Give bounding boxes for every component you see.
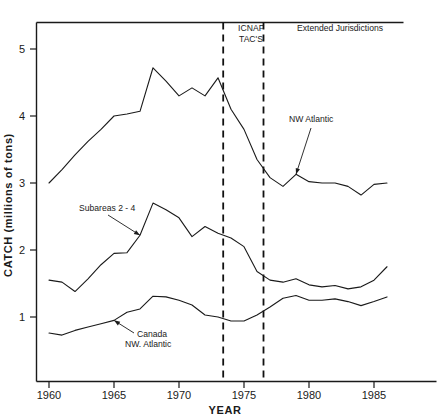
y-tick-label-3: 3	[19, 177, 25, 189]
y-tick-label-5: 5	[19, 43, 25, 55]
y-axis-title: CATCH (millions of tons)	[2, 133, 14, 277]
y-axis-ticks	[30, 49, 37, 317]
series-group	[49, 68, 387, 335]
series-line-subareas-2-4	[49, 203, 387, 291]
event-markers	[223, 23, 263, 382]
arrowhead-subareas-2-4	[134, 230, 140, 235]
x-tick-label-1960: 1960	[37, 389, 61, 401]
annotation-subareas-2-4: Subareas 2 - 4	[79, 203, 136, 213]
x-axis-tick-labels: 1960 1965 1970 1975 1980 1985	[37, 389, 386, 401]
series-line-canada-nw-atlantic	[49, 296, 387, 336]
icnaf-label-line2: TAC'S	[239, 34, 263, 44]
x-tick-label-1970: 1970	[167, 389, 191, 401]
chart-figure: 5 4 3 2 1 1960 1965 1970 1975 1980 1985 …	[0, 0, 441, 418]
arrowhead-nw-atlantic	[296, 168, 300, 174]
x-tick-label-1985: 1985	[362, 389, 386, 401]
plot-frame	[37, 23, 437, 382]
icnaf-label-line1: ICNAF	[238, 23, 264, 33]
y-tick-label-4: 4	[19, 110, 25, 122]
leader-nw-atlantic	[296, 128, 311, 174]
arrowhead-canada-nw-atlantic	[114, 320, 120, 325]
annotation-nw-atlantic: NW Atlantic	[289, 114, 334, 124]
x-tick-label-1980: 1980	[297, 389, 321, 401]
x-tick-label-1965: 1965	[102, 389, 126, 401]
extended-jurisdictions-label: Extended Jurisdictions	[297, 23, 383, 33]
y-tick-label-1: 1	[19, 311, 25, 323]
x-tick-label-1975: 1975	[232, 389, 256, 401]
series-line-nw-atlantic	[49, 68, 387, 195]
annotation-canada-line1: Canada	[137, 329, 167, 339]
catch-line-chart: 5 4 3 2 1 1960 1965 1970 1975 1980 1985 …	[0, 0, 441, 418]
x-axis-ticks	[49, 382, 374, 389]
annotation-leaders	[108, 128, 311, 333]
annotation-labels: NW Atlantic Subareas 2 - 4 Canada NW. At…	[79, 114, 334, 349]
y-axis-tick-labels: 5 4 3 2 1	[19, 43, 25, 323]
annotation-canada-line2: NW. Atlantic	[125, 339, 172, 349]
x-axis-title: YEAR	[209, 404, 242, 416]
event-labels: ICNAF TAC'S Extended Jurisdictions	[238, 23, 383, 44]
y-tick-label-2: 2	[19, 244, 25, 256]
